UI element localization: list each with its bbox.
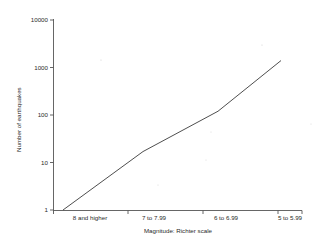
chart-canvas: 10000 1000 100 10 1 Number of earthquake… bbox=[0, 0, 323, 243]
x-tick-label-7-to-799: 7 to 7.99 bbox=[142, 214, 167, 221]
y-tick-label-10: 10 bbox=[41, 159, 48, 166]
y-tick-label-10000: 10000 bbox=[31, 16, 49, 23]
y-axis-title: Number of earthquakes bbox=[15, 87, 22, 152]
y-axis-ticks bbox=[50, 20, 54, 210]
x-axis-title: Magnitude: Richter scale bbox=[144, 227, 213, 234]
y-tick-label-1000: 1000 bbox=[34, 64, 48, 71]
scan-artifacts bbox=[100, 44, 311, 185]
y-tick-label-1: 1 bbox=[45, 206, 49, 213]
x-tick-label-8-and-higher: 8 and higher bbox=[73, 214, 107, 221]
earthquake-count-line bbox=[63, 61, 281, 210]
y-tick-label-100: 100 bbox=[38, 111, 49, 118]
x-tick-label-6-to-699: 6 to 6.99 bbox=[214, 214, 239, 221]
x-tick-label-5-to-599: 5 to 5.99 bbox=[278, 214, 303, 221]
earthquake-magnitude-chart: 10000 1000 100 10 1 Number of earthquake… bbox=[0, 0, 323, 243]
